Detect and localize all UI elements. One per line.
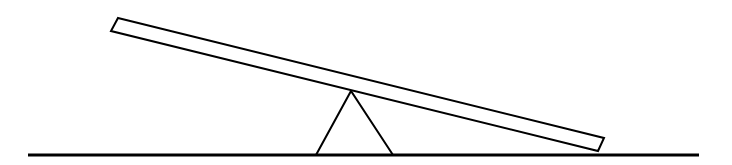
seesaw-plank: [111, 18, 604, 151]
seesaw-diagram: [0, 0, 732, 165]
fulcrum-triangle: [316, 91, 393, 155]
